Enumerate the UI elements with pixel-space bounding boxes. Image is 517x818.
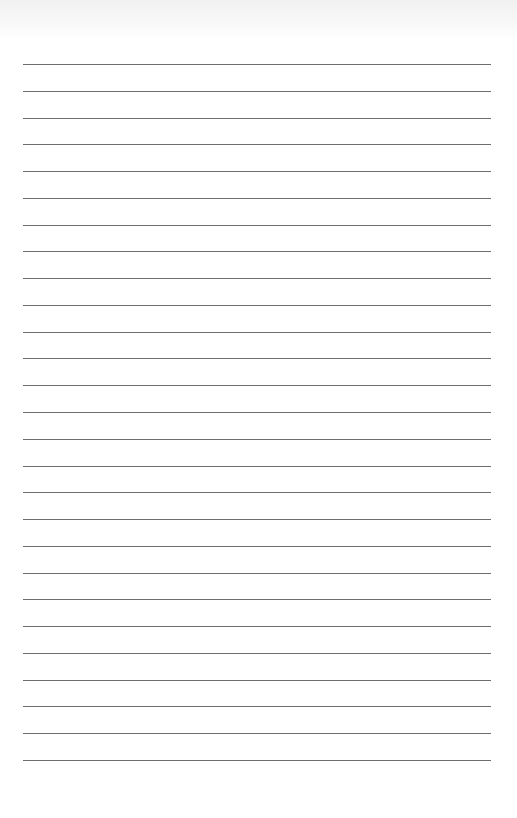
ruled-line [23,599,491,600]
ruled-line [23,492,491,493]
ruled-line [23,385,491,386]
ruled-line [23,760,491,761]
ruled-line [23,546,491,547]
ruled-line [23,439,491,440]
ruled-line [23,358,491,359]
ruled-line [23,653,491,654]
ruled-line [23,626,491,627]
ruled-line [23,144,491,145]
ruled-line [23,171,491,172]
ruled-line [23,573,491,574]
ruled-line [23,64,491,65]
ruled-line [23,198,491,199]
ruled-line [23,118,491,119]
ruled-line [23,412,491,413]
ruled-line [23,466,491,467]
ruled-line [23,305,491,306]
ruled-line [23,519,491,520]
ruled-line [23,733,491,734]
ruled-line [23,332,491,333]
ruled-line [23,251,491,252]
ruled-line [23,91,491,92]
ruled-line [23,706,491,707]
ruled-line [23,278,491,279]
ruled-line [23,680,491,681]
ruled-lines [0,0,517,818]
ruled-line [23,225,491,226]
